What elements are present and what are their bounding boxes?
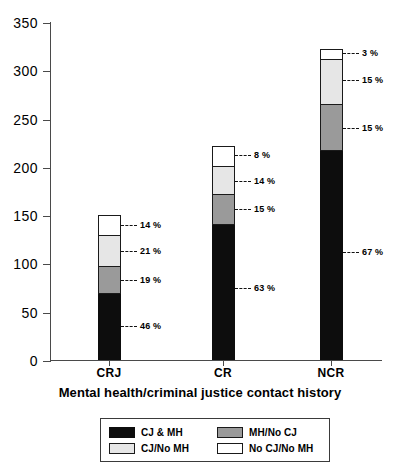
bar-cr-segment-mhnocj — [212, 194, 235, 225]
x-tick-label-cr: CR — [214, 366, 232, 380]
y-tick-200 — [43, 168, 51, 169]
leader-line — [121, 326, 137, 327]
callout-ncr-cjnomh: 15 % — [343, 75, 383, 85]
callout-text: 15 % — [362, 75, 383, 85]
callout-text: 21 % — [140, 246, 161, 256]
legend-item-nocjnomh: No CJ/No MH — [217, 440, 321, 456]
legend-swatch-nocjnomh-icon — [217, 443, 243, 454]
bar-ncr-segment-cjmh — [320, 150, 343, 360]
callout-ncr-nocjnomh: 3 % — [343, 48, 378, 58]
legend-swatch-mhnocj-icon — [217, 427, 243, 438]
y-tick-label-150: 150 — [13, 209, 38, 223]
chart-legend: CJ & MH MH/No CJ CJ/No MH No CJ/No MH — [100, 418, 330, 462]
legend-item-cjnomh: CJ/No MH — [109, 440, 213, 456]
x-axis-title: Mental health/criminal justice contact h… — [0, 385, 400, 400]
legend-swatch-cjnomh-icon — [109, 443, 135, 454]
callout-text: 63 % — [254, 283, 275, 293]
legend-label-cjnomh: CJ/No MH — [141, 443, 189, 454]
callout-ncr-mhnocj: 15 % — [343, 123, 383, 133]
callout-crj-mhnocj: 19 % — [121, 275, 161, 285]
y-tick-150 — [43, 216, 51, 217]
callout-text: 8 % — [254, 150, 270, 160]
y-tick-0 — [43, 361, 51, 362]
bar-ncr-segment-nocjnomh — [320, 49, 343, 60]
y-tick-label-350: 350 — [13, 16, 38, 30]
leader-line — [121, 225, 137, 226]
leader-line — [343, 252, 359, 253]
legend-swatch-cjmh-icon — [109, 427, 135, 438]
x-axis-line — [50, 360, 382, 361]
bar-cr-segment-cjmh — [212, 224, 235, 360]
leader-line — [235, 155, 251, 156]
leader-line — [121, 251, 137, 252]
legend-label-cjmh: CJ & MH — [141, 427, 183, 438]
callout-text: 3 % — [362, 48, 378, 58]
callout-cr-mhnocj: 15 % — [235, 204, 275, 214]
x-tick-label-crj: CRJ — [97, 366, 122, 380]
leader-line — [235, 288, 251, 289]
legend-label-nocjnomh: No CJ/No MH — [249, 443, 313, 454]
y-tick-250 — [43, 120, 51, 121]
leader-line — [343, 53, 359, 54]
legend-item-mhnocj: MH/No CJ — [217, 424, 321, 440]
leader-line — [121, 280, 137, 281]
y-tick-label-0: 0 — [30, 354, 38, 368]
leader-line — [343, 128, 359, 129]
leader-line — [235, 209, 251, 210]
y-tick-350 — [43, 23, 51, 24]
y-tick-label-250: 250 — [13, 113, 38, 127]
stacked-bar-chart: 0 50 100 150 200 250 300 350 CRJ CR NCR … — [0, 0, 400, 475]
bar-crj-segment-nocjnomh — [98, 215, 121, 236]
y-tick-label-100: 100 — [13, 257, 38, 271]
bar-ncr-segment-mhnocj — [320, 104, 343, 151]
y-tick-label-50: 50 — [21, 306, 38, 320]
x-tick-label-ncr: NCR — [318, 366, 345, 380]
callout-crj-cjmh: 46 % — [121, 321, 161, 331]
bar-crj-segment-cjnomh — [98, 235, 121, 267]
callout-text: 19 % — [140, 275, 161, 285]
y-tick-300 — [43, 71, 51, 72]
y-tick-label-200: 200 — [13, 161, 38, 175]
callout-text: 46 % — [140, 321, 161, 331]
callout-text: 15 % — [362, 123, 383, 133]
callout-text: 14 % — [254, 176, 275, 186]
y-axis-line — [50, 22, 51, 361]
leader-line — [235, 181, 251, 182]
bar-crj-segment-mhnocj — [98, 266, 121, 294]
y-tick-50 — [43, 313, 51, 314]
y-tick-label-300: 300 — [13, 64, 38, 78]
y-tick-100 — [43, 264, 51, 265]
callout-text: 14 % — [140, 220, 161, 230]
callout-crj-nocjnomh: 14 % — [121, 220, 161, 230]
callout-crj-cjnomh: 21 % — [121, 246, 161, 256]
legend-label-mhnocj: MH/No CJ — [249, 427, 297, 438]
bar-crj-segment-cjmh — [98, 293, 121, 360]
leader-line — [343, 80, 359, 81]
callout-text: 15 % — [254, 204, 275, 214]
callout-cr-nocjnomh: 8 % — [235, 150, 270, 160]
bar-cr-segment-cjnomh — [212, 166, 235, 195]
bar-cr-segment-nocjnomh — [212, 146, 235, 167]
legend-item-cjmh: CJ & MH — [109, 424, 213, 440]
callout-ncr-cjmh: 67 % — [343, 247, 383, 257]
callout-text: 67 % — [362, 247, 383, 257]
callout-cr-cjmh: 63 % — [235, 283, 275, 293]
callout-cr-cjnomh: 14 % — [235, 176, 275, 186]
bar-ncr-segment-cjnomh — [320, 59, 343, 105]
